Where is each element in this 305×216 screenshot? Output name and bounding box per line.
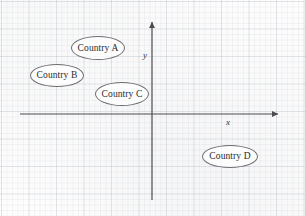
node-country-b[interactable]: Country B [30, 64, 84, 87]
node-country-b-label: Country B [37, 70, 78, 80]
node-country-d[interactable]: Country D [202, 145, 258, 168]
node-country-c-label: Country C [102, 89, 143, 99]
node-country-c[interactable]: Country C [95, 82, 149, 106]
axes-layer [0, 0, 305, 216]
node-country-a-label: Country A [78, 43, 119, 53]
node-country-a[interactable]: Country A [71, 36, 125, 60]
x-axis-label: x [226, 117, 230, 127]
node-country-d-label: Country D [209, 151, 250, 161]
diagram-canvas: x y Country A Country B Country C Countr… [0, 0, 305, 216]
y-axis-label: y [143, 50, 147, 60]
